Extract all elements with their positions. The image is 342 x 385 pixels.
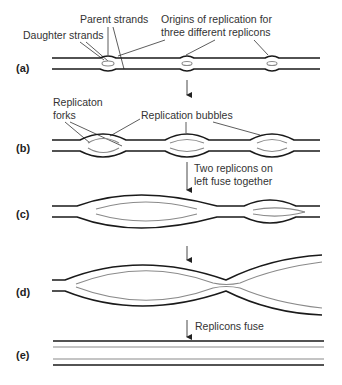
row-label-e: (e) xyxy=(16,349,30,361)
row-a: (a) Parent strands Daughter strands Orig… xyxy=(16,13,320,95)
label-origins-line1: Origins of replication for xyxy=(161,13,272,25)
label-parent-strands: Parent strands xyxy=(80,13,148,25)
daughter-strands-d xyxy=(76,262,322,308)
row-e: (e) xyxy=(16,341,324,365)
label-forks-line1: Replicaton xyxy=(53,96,103,108)
row-label-d: (d) xyxy=(16,286,30,298)
label-replicons-fuse: Replicons fuse xyxy=(195,320,264,332)
label-forks-line2: forks xyxy=(53,109,76,121)
row-label-c: (c) xyxy=(16,208,30,220)
label-origins-line2: three different replicons xyxy=(161,26,271,38)
row-d: (d) Replicons fuse xyxy=(16,255,322,337)
daughter-strands-a xyxy=(102,61,277,66)
label-daughter-strands: Daughter strands xyxy=(23,29,104,41)
daughter-strands-b xyxy=(88,139,287,153)
row-label-a: (a) xyxy=(16,62,30,74)
label-fuse-left-line2: left fuse together xyxy=(194,175,273,187)
row-b: (b) Replicaton forks Replication bubbles… xyxy=(16,96,320,190)
parent-strands-c xyxy=(52,195,320,228)
parent-strands-b xyxy=(52,134,320,157)
label-fuse-left-line1: Two replicons on xyxy=(194,162,273,174)
row-c: (c) xyxy=(16,195,320,260)
parent-strands-a xyxy=(52,56,320,71)
label-replication-bubbles: Replication bubbles xyxy=(141,109,233,121)
row-label-b: (b) xyxy=(16,142,30,154)
daughter-strands-c xyxy=(96,202,305,221)
parent-strands-d xyxy=(52,255,322,315)
dna-replication-diagram: (a) Parent strands Daughter strands Orig… xyxy=(0,0,342,385)
